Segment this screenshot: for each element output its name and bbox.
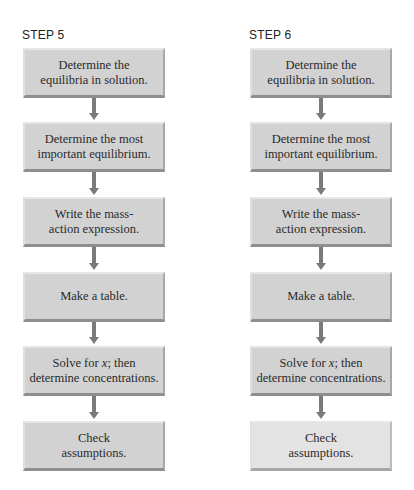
flow-box-solve-for-x: Solve for x; thendetermine concentration… (23, 346, 165, 396)
down-arrow-icon (319, 172, 323, 190)
flow-box-make-table: Make a table. (250, 272, 392, 322)
down-arrow-icon (92, 172, 96, 190)
flowchart-step-6: STEP 6 Determine theequilibria in soluti… (247, 0, 397, 490)
box-text-line: Determine the most (264, 132, 377, 147)
box-text-line: Make a table. (60, 289, 128, 304)
down-arrow-icon (319, 98, 323, 115)
flow-box-solve-for-x: Solve for x; thendetermine concentration… (250, 346, 392, 396)
box-text-line: Make a table. (287, 289, 355, 304)
down-arrow-icon (92, 98, 96, 115)
box-text-line: action expression. (49, 222, 139, 237)
flow-box-most-important-equilibrium: Determine the mostimportant equilibrium. (23, 122, 165, 172)
step-label: STEP 6 (249, 28, 291, 42)
box-text-line: Check (289, 431, 354, 446)
flow-box-make-table: Make a table. (23, 272, 165, 322)
box-text-line: Solve for x; then (29, 356, 158, 371)
down-arrow-icon (92, 247, 96, 265)
box-text-line: Determine the (267, 58, 374, 73)
flow-box-determine-equilibria: Determine theequilibria in solution. (23, 48, 165, 98)
down-arrow-icon (92, 322, 96, 339)
box-text-line: Write the mass- (276, 207, 366, 222)
box-text-line: important equilibrium. (264, 147, 377, 162)
flow-box-check-assumptions: Checkassumptions. (23, 421, 165, 471)
box-text-line: Write the mass- (49, 207, 139, 222)
flow-box-check-assumptions-current: Checkassumptions. (250, 421, 392, 471)
down-arrow-icon (92, 396, 96, 414)
down-arrow-icon (319, 396, 323, 414)
flow-box-mass-action-expression: Write the mass-action expression. (250, 197, 392, 247)
box-text-line: Determine the most (37, 132, 150, 147)
box-text-line: determine concentrations. (29, 371, 158, 386)
box-text-line: equilibria in solution. (40, 73, 147, 88)
down-arrow-icon (319, 322, 323, 339)
flowchart-step-5: STEP 5 Determine theequilibria in soluti… (20, 0, 170, 490)
box-text-line: Check (62, 431, 127, 446)
step-label: STEP 5 (22, 28, 64, 42)
down-arrow-icon (319, 247, 323, 265)
box-text-line: important equilibrium. (37, 147, 150, 162)
box-text-line: assumptions. (62, 446, 127, 461)
flow-box-determine-equilibria: Determine theequilibria in solution. (250, 48, 392, 98)
box-text-line: determine concentrations. (256, 371, 385, 386)
box-text-line: action expression. (276, 222, 366, 237)
box-text-line: Solve for x; then (256, 356, 385, 371)
box-text-line: equilibria in solution. (267, 73, 374, 88)
flow-box-most-important-equilibrium: Determine the mostimportant equilibrium. (250, 122, 392, 172)
box-text-line: Determine the (40, 58, 147, 73)
box-text-line: assumptions. (289, 446, 354, 461)
flow-box-mass-action-expression: Write the mass-action expression. (23, 197, 165, 247)
